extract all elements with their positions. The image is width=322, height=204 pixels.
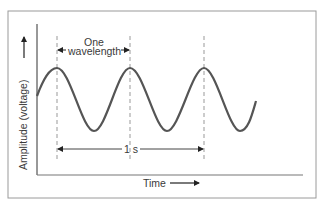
outer-frame [8,11,316,198]
wavelength-label-line2: wavelength [68,46,121,57]
x-axis-label: Time [143,178,166,189]
sine-wave [37,68,256,131]
y-axis-label: Amplitude (voltage) [18,80,29,170]
diagram-canvas [0,0,322,204]
period-label: 1 s [124,144,138,155]
